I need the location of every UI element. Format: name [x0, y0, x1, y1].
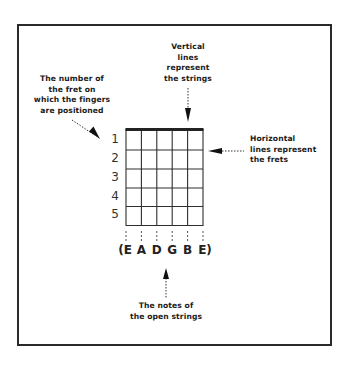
string-leaders [126, 231, 203, 241]
open-note-5: B [180, 243, 196, 257]
fret-lines [126, 150, 203, 226]
arrow-down-icon [185, 88, 191, 122]
fret-number-3: 3 [108, 170, 122, 184]
strings-label: Vertical lines represent the strings [148, 42, 228, 84]
open-strings-label-line: the open strings [116, 312, 216, 323]
arrow-left-icon [208, 148, 244, 154]
open-note-4: G [164, 243, 180, 257]
strings-label-line: Vertical [148, 42, 228, 53]
fret-number-1: 1 [108, 132, 122, 146]
frets-label-line: lines represent [250, 145, 330, 156]
arrow-up-icon [163, 268, 169, 298]
strings-label-line: represent [148, 63, 228, 74]
fret-number-label-line: are positioned [22, 106, 122, 117]
open-strings-label: The notes of the open strings [116, 301, 216, 322]
fret-number-label-line: The number of [22, 74, 122, 85]
strings-label-line: the strings [148, 74, 228, 85]
fret-number-4: 4 [108, 189, 122, 203]
string-lines [126, 129, 203, 226]
frets-label-line: the frets [250, 155, 330, 166]
arrow-diagonal-icon [72, 120, 100, 139]
fret-number-label: The number of the fret on which the fing… [22, 74, 122, 116]
fret-number-5: 5 [108, 207, 122, 221]
frets-label-line: Horizontal [250, 134, 330, 145]
open-note-2: A [133, 243, 149, 257]
frets-label: Horizontal lines represent the frets [250, 134, 330, 166]
open-note-6: E) [197, 243, 213, 257]
fret-number-2: 2 [108, 151, 122, 165]
strings-label-line: lines [148, 53, 228, 64]
fret-number-label-line: which the fingers [22, 95, 122, 106]
open-strings-label-line: The notes of [116, 301, 216, 312]
fret-number-label-line: the fret on [22, 85, 122, 96]
open-note-3: D [149, 243, 165, 257]
open-note-1: (E [117, 243, 133, 257]
